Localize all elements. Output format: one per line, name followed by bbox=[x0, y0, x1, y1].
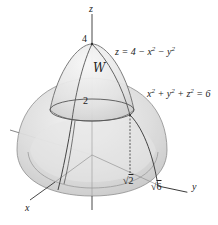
eq-exponent: 2 bbox=[172, 45, 176, 53]
sphere-equation-label: x2 + y2 + z2 = 6 bbox=[147, 89, 211, 99]
y-axis bbox=[158, 186, 187, 192]
paraboloid-equation-label: z = 4 − x2 − y2 bbox=[115, 47, 175, 57]
eq-part: + y bbox=[155, 88, 171, 99]
intersection-point bbox=[129, 114, 131, 116]
eq-part: − y bbox=[155, 46, 171, 57]
eq-part: = 6 bbox=[194, 88, 211, 99]
diagram-canvas bbox=[0, 0, 218, 225]
region-w-label: W bbox=[93, 62, 105, 74]
radicand: 6 bbox=[157, 181, 162, 192]
z-tick-2: 2 bbox=[83, 96, 88, 106]
y-tick-sqrt6: √6 bbox=[151, 182, 162, 192]
y-tick-sqrt2: √2 bbox=[123, 176, 134, 186]
sphere-inner-shade bbox=[30, 118, 156, 182]
z-axis-label: z bbox=[89, 4, 93, 14]
eq-part: z = 4 − x bbox=[115, 46, 152, 57]
paraboloid-sphere-diagram: z x y 4 2 W z = 4 − x2 − y2 x2 + y2 + z2… bbox=[0, 0, 218, 225]
x-axis-label: x bbox=[25, 203, 29, 213]
eq-part: + z bbox=[175, 88, 191, 99]
radicand: 2 bbox=[129, 175, 134, 186]
y-axis-label: y bbox=[192, 182, 196, 192]
z-tick-4: 4 bbox=[82, 34, 87, 44]
